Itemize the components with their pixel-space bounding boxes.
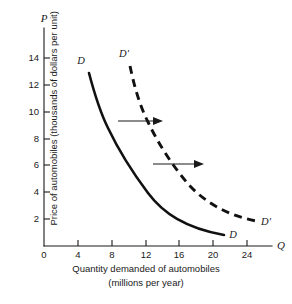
xtick-label-12: 12 (141, 249, 152, 260)
x-axis-title-sub: (millions per year) (0, 276, 292, 290)
x-axis-symbol-Q: Q (277, 239, 285, 251)
ytick-label-12: 12 (28, 79, 39, 90)
xtick-label-16: 16 (174, 249, 185, 260)
curve-label-d-prime-bottom: D' (260, 216, 272, 227)
y-axis-symbol-P: P (40, 12, 48, 24)
curve-label-d-bottom: D (228, 229, 237, 240)
xtick-label-8: 8 (109, 249, 114, 260)
demand-shift-arrow-lower (153, 160, 204, 168)
x-axis-title-main: Quantity demanded of automobiles (0, 262, 292, 276)
ytick-label-6: 6 (34, 159, 39, 170)
demand-curve-d-prime (130, 66, 256, 221)
curve-label-d-prime-top: D' (118, 48, 130, 59)
ytick-label-8: 8 (34, 133, 39, 144)
xtick-label-24: 24 (242, 249, 253, 260)
ytick-label-14: 14 (28, 52, 39, 63)
x-axis-title: Quantity demanded of automobiles (millio… (0, 262, 292, 290)
ytick-label-2: 2 (34, 213, 39, 224)
chart-plot-area: 2 4 6 8 10 12 14 0 4 8 12 16 20 24 P Q D (0, 0, 292, 304)
xtick-label-20: 20 (208, 249, 219, 260)
demand-curve-d (89, 73, 224, 235)
demand-shift-arrow-upper (118, 117, 163, 125)
curve-label-d-top: D (76, 55, 85, 66)
demand-curve-figure: 2 4 6 8 10 12 14 0 4 8 12 16 20 24 P Q D (0, 0, 292, 304)
xtick-label-0: 0 (41, 249, 46, 260)
xtick-label-4: 4 (75, 249, 80, 260)
ytick-label-4: 4 (34, 186, 39, 197)
y-axis-title: Price of automobiles (thousands of dolla… (48, 26, 59, 226)
ytick-label-10: 10 (28, 106, 39, 117)
x-axis-ticks (78, 240, 247, 246)
